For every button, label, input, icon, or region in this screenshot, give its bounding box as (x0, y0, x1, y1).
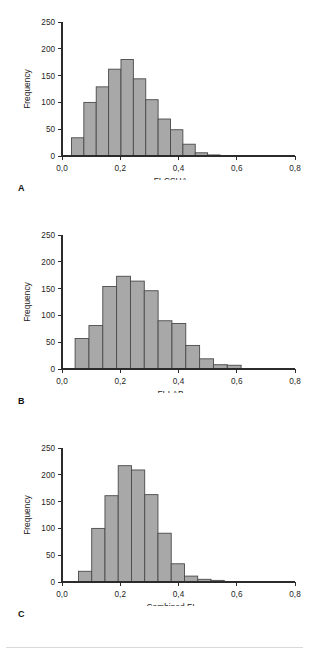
histogram-bar (133, 79, 145, 156)
x-axis-title: Combined FI (147, 602, 195, 606)
x-tick-label: 0,0 (56, 590, 68, 599)
y-tick-label: 150 (41, 498, 55, 507)
y-tick-label: 100 (41, 311, 55, 320)
x-tick-label: 0,2 (115, 590, 127, 599)
x-tick-label: 0,6 (231, 164, 243, 173)
histogram-bar (145, 495, 158, 582)
histogram-svg-c: 0501001502002500,00,20,40,60,8Combined F… (0, 426, 309, 606)
bar-group (78, 466, 237, 582)
panel-letter-a: A (18, 183, 25, 193)
y-tick-label: 150 (41, 285, 55, 294)
panel-a: 0501001502002500,00,20,40,60,8FI-CSHAFre… (0, 0, 309, 213)
y-tick-label: 200 (41, 258, 55, 267)
histogram-bar (84, 102, 96, 156)
panel-letter-b: B (18, 396, 25, 406)
x-tick-label: 0,4 (173, 164, 185, 173)
histogram-bar (158, 321, 172, 369)
histogram-bar (172, 323, 186, 369)
x-tick-label: 0,6 (231, 590, 243, 599)
histogram-bar (109, 69, 121, 156)
histogram-bar (170, 130, 182, 156)
x-tick-label: 0,2 (115, 164, 127, 173)
y-tick-label: 0 (50, 365, 55, 374)
panel-c: 0501001502002500,00,20,40,60,8Combined F… (0, 426, 309, 639)
x-tick-label: 0,6 (231, 377, 243, 386)
y-axis-title: Frequency (22, 281, 32, 321)
histogram-bar (105, 496, 118, 582)
histogram-plot-a: 0501001502002500,00,20,40,60,8FI-CSHAFre… (0, 0, 309, 180)
bar-group (75, 276, 241, 369)
y-tick-label: 50 (46, 338, 56, 347)
histogram-bar (158, 533, 171, 582)
histogram-bar (183, 144, 195, 156)
histogram-bar (117, 276, 131, 369)
x-axis-title: FI-CSHA (154, 176, 188, 180)
histogram-bar (171, 564, 184, 582)
panel-letter-c: C (18, 609, 25, 619)
histogram-bar (130, 281, 144, 369)
y-tick-label: 250 (41, 18, 55, 27)
x-tick-label: 0,8 (289, 164, 301, 173)
y-tick-label: 250 (41, 231, 55, 240)
figure-three-histogram-panels: 0501001502002500,00,20,40,60,8FI-CSHAFre… (0, 0, 309, 662)
y-tick-label: 50 (46, 551, 56, 560)
y-tick-label: 200 (41, 471, 55, 480)
bar-group (71, 60, 244, 157)
panel-b: 0501001502002500,00,20,40,60,8FI-LABFreq… (0, 213, 309, 426)
x-tick-label: 0,0 (56, 164, 68, 173)
y-tick-label: 0 (50, 578, 55, 587)
histogram-plot-b: 0501001502002500,00,20,40,60,8FI-LABFreq… (0, 213, 309, 393)
histogram-bar (118, 466, 131, 582)
histogram-svg-a: 0501001502002500,00,20,40,60,8FI-CSHAFre… (0, 0, 309, 180)
histogram-bar (78, 571, 91, 582)
x-tick-label: 0,4 (173, 590, 185, 599)
histogram-bar (213, 365, 227, 369)
y-tick-label: 100 (41, 524, 55, 533)
y-axis-title: Frequency (22, 494, 32, 534)
x-axis-title: FI-LAB (157, 389, 183, 393)
y-tick-label: 0 (50, 152, 55, 161)
y-tick-label: 200 (41, 45, 55, 54)
histogram-bar (186, 345, 200, 369)
histogram-bar (184, 576, 197, 582)
histogram-bar (144, 291, 158, 369)
x-tick-label: 0,0 (56, 377, 68, 386)
histogram-bar (71, 138, 83, 156)
y-axis-title: Frequency (22, 68, 32, 108)
x-tick-label: 0,8 (289, 590, 301, 599)
histogram-svg-b: 0501001502002500,00,20,40,60,8FI-LABFreq… (0, 213, 309, 393)
histogram-bar (158, 119, 170, 156)
page-divider-rule (6, 647, 303, 648)
page-edge-artifact (18, 653, 20, 660)
histogram-bar (103, 286, 117, 369)
x-tick-label: 0,2 (115, 377, 127, 386)
histogram-bar (92, 528, 105, 582)
y-tick-label: 100 (41, 98, 55, 107)
x-tick-label: 0,4 (173, 377, 185, 386)
y-tick-label: 150 (41, 72, 55, 81)
histogram-plot-c: 0501001502002500,00,20,40,60,8Combined F… (0, 426, 309, 606)
histogram-bar (146, 100, 158, 156)
histogram-bar (96, 87, 108, 156)
y-tick-label: 50 (46, 125, 56, 134)
histogram-bar (121, 60, 133, 156)
histogram-bar (131, 470, 144, 582)
histogram-bar (75, 338, 89, 369)
histogram-bar (89, 326, 103, 369)
histogram-bar (227, 365, 241, 369)
histogram-bar (200, 359, 214, 369)
y-tick-label: 250 (41, 444, 55, 453)
x-tick-label: 0,8 (289, 377, 301, 386)
